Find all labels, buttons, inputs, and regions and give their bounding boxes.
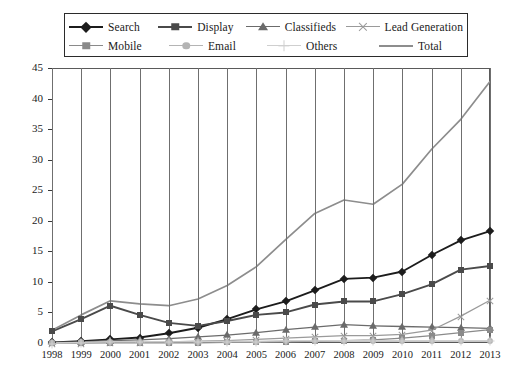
data-point-display	[341, 298, 347, 304]
gridline-vertical	[227, 68, 228, 343]
y-axis-label: 45	[18, 61, 43, 73]
gridline-vertical	[402, 68, 403, 343]
data-point-display	[137, 312, 143, 318]
y-axis-tick	[48, 68, 52, 69]
data-point-display	[166, 320, 172, 326]
y-axis-label: 35	[18, 122, 43, 134]
data-point-others	[281, 336, 290, 345]
y-axis-label: 20	[18, 214, 43, 226]
y-axis-tick	[48, 312, 52, 313]
data-point-others	[135, 337, 144, 346]
series-line-total	[52, 81, 490, 330]
gridline-vertical	[81, 68, 82, 343]
data-point-mobile	[458, 330, 464, 336]
gridline-vertical	[461, 68, 462, 343]
x-axis-label: 2013	[473, 349, 507, 360]
data-point-others	[48, 339, 57, 348]
data-point-display	[429, 281, 435, 287]
data-point-classifieds	[398, 322, 406, 329]
data-point-display	[78, 316, 84, 322]
data-point-others	[340, 336, 349, 345]
data-point-lead-generation	[486, 296, 495, 305]
data-point-display	[49, 328, 55, 334]
y-axis-tick	[48, 251, 52, 252]
series-line-display	[52, 266, 490, 331]
data-point-others	[194, 337, 203, 346]
data-point-mobile	[487, 327, 493, 333]
y-axis-label: 10	[18, 275, 43, 287]
y-axis-label: 15	[18, 244, 43, 256]
gridline-vertical	[256, 68, 257, 343]
gridline-vertical	[140, 68, 141, 343]
data-point-lead-generation	[456, 312, 465, 321]
data-point-others	[223, 337, 232, 346]
data-point-classifieds	[340, 320, 348, 327]
y-axis-label: 30	[18, 153, 43, 165]
gridline-vertical	[198, 68, 199, 343]
line-chart: SearchDisplayClassifiedsLead Generation …	[0, 0, 523, 375]
data-point-others	[486, 336, 495, 345]
data-point-others	[369, 336, 378, 345]
y-axis-label: 40	[18, 92, 43, 104]
data-point-others	[164, 337, 173, 346]
gridline-vertical	[432, 68, 433, 343]
y-axis-label: 5	[18, 305, 43, 317]
data-point-others	[252, 337, 261, 346]
data-point-display	[399, 291, 405, 297]
data-point-classifieds	[311, 323, 319, 330]
data-point-display	[312, 302, 318, 308]
y-axis-tick	[48, 190, 52, 191]
data-point-others	[77, 338, 86, 347]
gridline-vertical	[169, 68, 170, 343]
data-point-display	[458, 267, 464, 273]
data-point-display	[253, 312, 259, 318]
data-point-others	[398, 336, 407, 345]
data-point-others	[456, 336, 465, 345]
y-axis-tick	[48, 99, 52, 100]
data-point-display	[224, 318, 230, 324]
data-point-classifieds	[369, 322, 377, 329]
data-point-display	[195, 323, 201, 329]
gridline-vertical	[52, 68, 53, 343]
data-point-display	[370, 298, 376, 304]
data-point-others	[310, 336, 319, 345]
data-point-others	[427, 336, 436, 345]
data-point-display	[107, 303, 113, 309]
y-axis-label: 25	[18, 183, 43, 195]
plot-area: 0510152025303540451998199920002001200220…	[0, 0, 523, 375]
data-point-display	[487, 263, 493, 269]
y-axis-tick	[48, 282, 52, 283]
data-point-classifieds	[282, 325, 290, 332]
y-axis-tick	[48, 221, 52, 222]
y-axis-tick	[48, 160, 52, 161]
y-axis-label: 0	[18, 336, 43, 348]
data-point-others	[106, 337, 115, 346]
data-point-display	[283, 309, 289, 315]
y-axis-tick	[48, 129, 52, 130]
